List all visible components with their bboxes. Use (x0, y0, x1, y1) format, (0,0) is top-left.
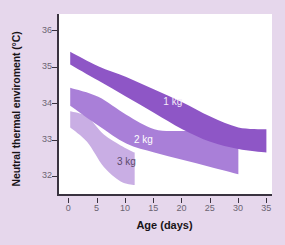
y-tick-label: 32 (30, 171, 52, 180)
x-tick-mark (210, 198, 211, 203)
x-tick-label: 0 (56, 204, 80, 213)
x-axis-ticks: 05101520253035 (0, 198, 285, 218)
y-tick-label: 35 (30, 62, 52, 71)
x-tick-mark (181, 198, 182, 203)
y-tick-label: 33 (30, 135, 52, 144)
x-tick-label: 25 (198, 204, 222, 213)
series-bands (59, 14, 272, 194)
x-tick-label: 10 (113, 204, 137, 213)
x-tick-label: 30 (226, 204, 250, 213)
x-tick-mark (238, 198, 239, 203)
plot-area (57, 14, 272, 196)
y-tick-label: 36 (30, 26, 52, 35)
x-tick-label: 15 (141, 204, 165, 213)
x-tick-mark (97, 198, 98, 203)
x-tick-label: 5 (85, 204, 109, 213)
chart-root: Neutral thermal enviroment (°C) 36353433… (0, 0, 285, 245)
x-tick-mark (153, 198, 154, 203)
x-tick-mark (125, 198, 126, 203)
x-tick-label: 35 (254, 204, 278, 213)
x-tick-mark (68, 198, 69, 203)
x-tick-label: 20 (169, 204, 193, 213)
x-axis-title: Age (days) (57, 219, 272, 231)
y-tick-label: 34 (30, 99, 52, 108)
x-tick-mark (266, 198, 267, 203)
y-axis-title: Neutral thermal enviroment (°C) (10, 21, 22, 197)
